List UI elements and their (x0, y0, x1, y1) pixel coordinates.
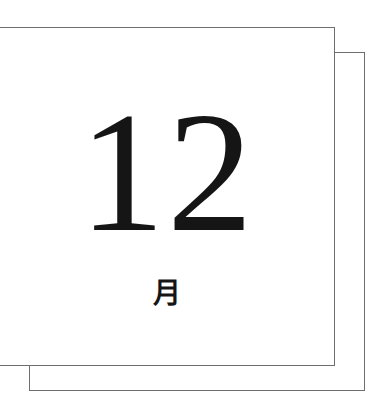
calendar-front-page: 12 月 (0, 27, 335, 366)
month-label: 月 (0, 276, 334, 312)
calendar-number: 12 (0, 86, 334, 258)
